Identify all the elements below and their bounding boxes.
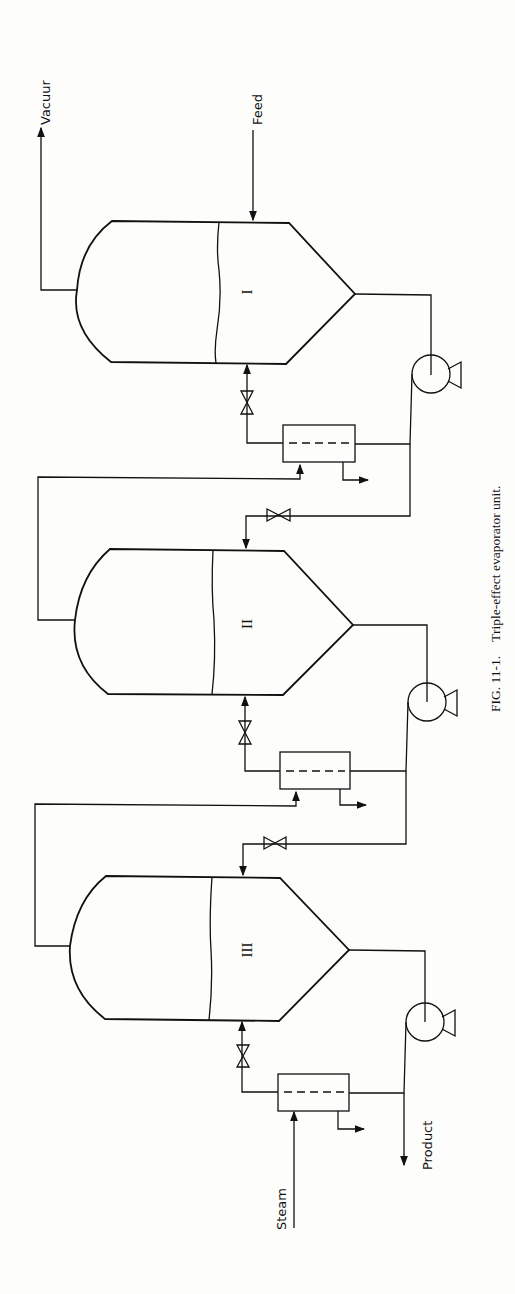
effect-label-iii: III [239,943,255,958]
effect-i-vessel: I [76,221,355,364]
heater-outlet-ii [245,697,280,771]
condensate-ii [340,789,366,805]
liquid-level-i [215,222,220,363]
bottoms-line-ii [353,625,427,702]
effect-iii-vessel: III [70,876,349,1021]
feed-label: Feed [250,94,265,125]
transfer-i-ii [246,444,410,548]
evaporator-diagram: I Vacuur Feed II [0,0,515,1294]
vacuum-line [41,128,77,290]
vapor-ii-to-heater-i [38,465,300,620]
caption-text: Triple-effect evaporator unit. [488,486,503,642]
pump-i [412,355,461,393]
effect-label-ii: II [239,619,255,629]
valve-iii-circ [237,1045,249,1067]
product-label: Product [420,1121,435,1170]
caption-number: FIG. 11-1. [488,656,503,712]
bottoms-line-i [355,294,431,375]
heater-outlet-i [247,365,283,443]
bottoms-line-iii [349,950,425,1022]
condensate-iii [338,1111,364,1129]
valve-transfer-i-ii [267,509,290,521]
heater-outlet-iii [242,1022,278,1092]
pump-ii [408,683,457,721]
pump-iii [406,1003,455,1041]
effect-label-i: I [239,290,255,295]
condensate-i [343,462,368,480]
recirc-return-ii [350,702,408,771]
valve-transfer-ii-iii [264,837,286,849]
transfer-ii-iii [243,771,406,875]
vacuum-label: Vacuur [38,80,53,125]
liquid-level-ii [212,550,215,694]
steam-label: Steam [274,1188,289,1230]
recirc-return-i [355,374,412,444]
effect-ii-vessel: II [74,549,353,695]
liquid-level-iii [209,877,212,1020]
recirc-return-iii [349,1022,406,1093]
figure-caption: FIG. 11-1.Triple-effect evaporator unit. [488,486,503,712]
